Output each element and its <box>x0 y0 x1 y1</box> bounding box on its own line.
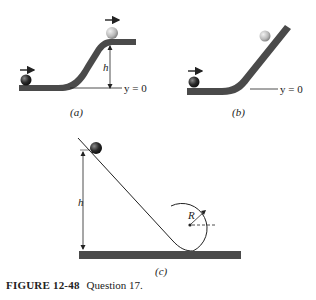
track-b <box>187 25 291 95</box>
panel-b: y = 0 (b) <box>187 25 303 119</box>
figure-caption: FIGURE 12-48Question 17. <box>6 279 143 291</box>
panel-label-a: (a) <box>70 106 83 119</box>
panel-label-b: (b) <box>232 106 245 119</box>
ball-dark-a <box>21 75 32 86</box>
baseline-label-a: y = 0 <box>124 82 147 94</box>
height-label-c: h <box>78 196 84 208</box>
panel-a: h y = 0 (a) <box>19 20 147 119</box>
baseline-label-b: y = 0 <box>280 83 303 95</box>
ground-c <box>79 251 241 259</box>
ball-dark-c <box>90 142 102 154</box>
figure-caption-text: Question 17. <box>87 279 143 291</box>
figure-diagram: h y = 0 (a) y = 0 (b) h R (c) <box>0 0 316 300</box>
ball-light-b <box>260 31 271 42</box>
height-label-a: h <box>103 61 109 73</box>
figure-number: FIGURE 12-48 <box>6 279 80 291</box>
ball-dark-b <box>189 77 200 88</box>
panel-c: h R (c) <box>78 138 241 278</box>
panel-label-c: (c) <box>155 265 168 278</box>
ball-light-a <box>106 27 118 39</box>
radius-label: R <box>187 209 195 221</box>
track-a <box>19 39 136 91</box>
incline-track-c <box>78 138 193 251</box>
